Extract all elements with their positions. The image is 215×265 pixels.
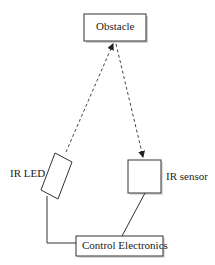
diagram-canvas bbox=[0, 0, 215, 265]
emitted-beam-arrow bbox=[66, 44, 113, 152]
ir-led-box bbox=[41, 153, 72, 199]
led-to-control-wire bbox=[47, 196, 76, 243]
control-electronics-label: Control Electronics bbox=[82, 239, 168, 251]
sensor-to-control-wire bbox=[122, 193, 145, 236]
obstacle-label: Obstacle bbox=[96, 20, 134, 32]
ir-led-label: IR LED bbox=[10, 167, 45, 179]
reflected-beam-arrow bbox=[116, 44, 143, 157]
ir-sensor-label: IR sensor bbox=[166, 170, 208, 182]
ir-sensor-box bbox=[128, 160, 161, 193]
